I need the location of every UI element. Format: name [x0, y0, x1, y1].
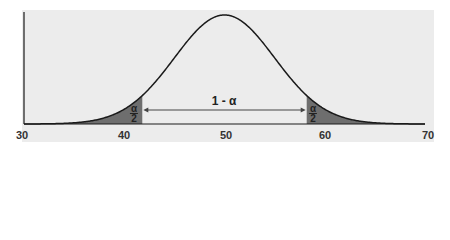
arrow-left-head-icon [143, 108, 148, 113]
left-tail-label: α 2 [130, 104, 138, 123]
x-tick-60: 60 [319, 129, 331, 141]
x-tick-30: 30 [16, 129, 28, 141]
x-tick-50: 50 [220, 129, 232, 141]
right-tail-denominator: 2 [310, 113, 316, 124]
arrow-right-head-icon [301, 108, 306, 113]
x-tick-70: 70 [422, 129, 434, 141]
x-tick-40: 40 [118, 129, 130, 141]
left-tail-denominator: 2 [131, 113, 137, 124]
confidence-interval-label: 1 - α [212, 94, 237, 108]
right-tail-label: α 2 [309, 104, 317, 123]
